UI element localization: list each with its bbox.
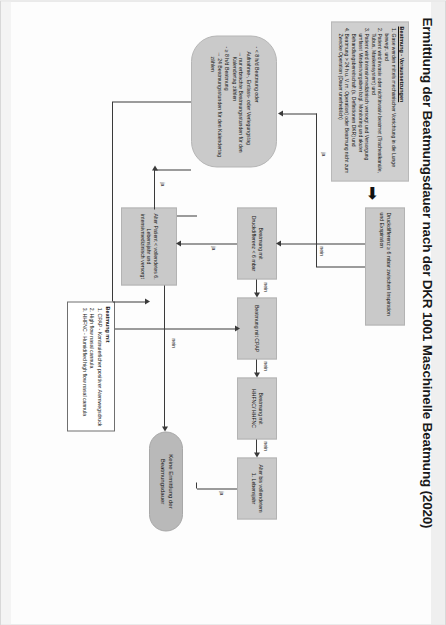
legend-item-3: Patient wird intensivmedizinisch versorg… [351,33,370,176]
legend-beatmung-voraussetzungen: Beatmung - Voraussetzungen Gase werden m… [331,21,409,181]
kriterien-line-2: Aufnahme-, Entlass- oder Verlegungstag [245,46,252,162]
edge-label-nein-druckdiff: nein [319,245,325,256]
edge-beatmungmit-to-cpap [115,328,237,329]
edge-loop-h-bottom [112,101,113,301]
node-beatmung-druckdifferenz: Beatmung mit Druckdifferenz < 6 mbar [237,207,277,279]
screenshot-frame: Ermittlung der Beatmungsdauer nach der D… [0,0,446,625]
node-alter-patient-label: Alter Patient < vollendetes 6. Lebensjah… [139,212,159,280]
page-title: Ermittlung der Beatmungsdauer nach der D… [420,17,435,528]
edge-label-ja-bdd: ja [211,245,217,251]
edge-alter1-to-keine-h [196,482,197,488]
kriterien-line-5: → 24 Beatmungsstunden für den Kalenderta… [209,46,222,162]
edge-label-ja-alterpatient: ja [160,181,166,187]
edge-arrow-alterpatient-to-keine [162,426,168,431]
edge-alterpatient-ja-riser [154,169,191,170]
edge-loop-v-right [113,301,145,302]
edge-label-nein-cpap: nein [263,360,269,371]
legend-item-4: Beatmung > 24 h u. V. m. Operation) oder… [338,33,351,176]
edge-arrow-bdd-to-cpap [254,292,260,297]
node-beatmung-cpap-label: Beatmung mit CPAP [254,304,261,351]
node-kriterien-beatmungsstunden: - < 8 h/d Beatmung oder Aufnahme-, Entla… [191,35,277,167]
node-druckdifferenz-label: Druckdifferenz ≥ 6 mbar zwischen Inspira… [378,212,391,320]
edge-bdd-to-cpap [256,279,257,293]
edge-arrow-cpap-to-hhfnc [254,372,260,377]
edge-druckdiff-down [317,266,365,267]
legend-heading: Beatmung - Voraussetzungen [398,26,405,176]
beatmung-mit-item-2: High flow nasal cannula [89,313,96,426]
edge-alterpatient-ja-to-kriterien [154,169,155,209]
edge-into-kriterien [283,113,317,114]
kriterien-line-3: → nur erbrachte Beatmungsstunden für den… [231,46,244,162]
box-beatmung-mit: Beatmung mit CPAP - Kontinuierlicher pos… [67,301,115,431]
node-alter-vollendetes-label: Alter bis vollendetem 1. Lebensjahr [250,462,263,514]
beatmung-mit-item-3: HHFNC - Humidified high flow nasal cannu… [82,313,89,426]
edge-cpap-to-hhfnc [256,359,257,373]
legend-item-2: Patient wird invasiv oder nichtinvasiv b… [371,33,384,176]
edge-alter1-down [197,488,237,489]
box-beatmung-mit-list: CPAP - Kontinuierlicher positiver Atemwe… [82,306,103,426]
edge-alterpatient-ja-v [177,215,197,216]
node-druckdifferenz: Druckdifferenz ≥ 6 mbar zwischen Inspira… [365,207,405,325]
edge-label-nein-bdd: nein [263,281,269,292]
edge-label-ja-alter1: ja [219,490,225,496]
edge-arrow-loop [145,298,150,304]
edge-arrow-druckdiff-nein [276,240,281,246]
node-keine-ermittlung: Keine Ermittlung der Beatmungsdauer [149,431,183,531]
edge-alterpatient-to-keine [164,285,165,427]
edge-label-ja-druckdiff: ja [321,151,327,157]
legend-item-1: Gase werden mittels mechanischer Vorrich… [384,33,397,176]
thick-arrow-icon: ➡ [364,185,381,199]
edge-arrow-hhfnc-to-alter1 [254,452,260,457]
node-keine-ermittlung-label: Keine Ermittlung der Beatmungsdauer [158,436,173,526]
edge-label-nein-hhfnc: nein [263,440,269,451]
edge-hhfnc-to-alter1 [256,439,257,453]
node-beatmung-hhfnc-label: Beatmung mit HHFNC/ HHFNC [250,382,263,434]
kriterien-list: - < 8 h/d Beatmung oder Aufnahme-, Entla… [208,40,260,162]
edge-loop-v-left [113,101,191,102]
beatmung-mit-item-1: CPAP - Kontinuierlicher positiver Atemwe… [96,313,103,426]
node-beatmung-cpap: Beatmung mit CPAP [237,297,277,359]
edge-arrow-beatmungmit [235,325,240,331]
kriterien-line-1: - < 8 h/d Beatmung oder [253,46,260,162]
node-beatmung-hhfnc: Beatmung mit HHFNC/ HHFNC [237,377,277,439]
node-beatmung-druckdifferenz-label: Beatmung mit Druckdifferenz < 6 mbar [250,212,263,274]
kriterien-line-4: - ≥ 8 h/d Beatmung [224,46,231,162]
edge-bdd-ja-v [181,243,237,244]
node-alter-vollendetes-1-lebensjahr: Alter bis vollendetem 1. Lebensjahr [237,457,277,519]
legend-list: Gase werden mittels mechanischer Vorrich… [338,26,397,176]
edge-arrow-into-kriterien [278,110,283,116]
box-beatmung-mit-heading: Beatmung mit [104,306,111,426]
edge-arrow-bdd-ja [176,240,181,246]
edge-druckdiff-nein-v [281,243,365,244]
scan-band-bottom [1,1,11,624]
flowchart-slide: Ermittlung der Beatmungsdauer nach der D… [0,0,446,625]
edge-label-nein-alterpatient: nein [171,337,177,348]
node-alter-patient: Alter Patient < vollendetes 6. Lebensjah… [121,207,177,285]
